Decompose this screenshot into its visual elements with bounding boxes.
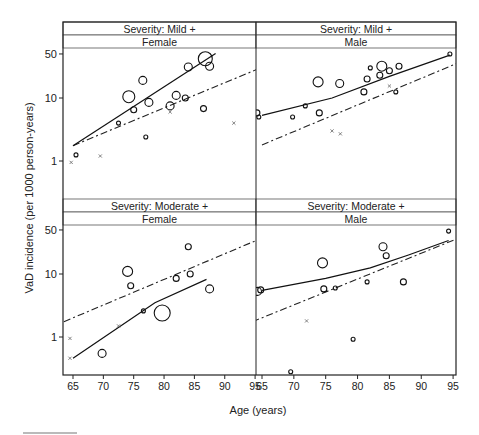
reference-line	[73, 69, 258, 146]
data-point	[289, 370, 293, 374]
cross-marker	[70, 161, 73, 164]
x-tick-label: 75	[320, 380, 332, 392]
data-point	[185, 244, 191, 250]
trellis-chart: Severity: Mild +FemaleSeverity: Mild +Ma…	[0, 0, 479, 435]
data-point	[368, 66, 372, 70]
y-tick-label: 50	[45, 224, 57, 236]
data-point	[128, 283, 134, 289]
data-point	[364, 76, 370, 82]
data-point	[117, 121, 121, 125]
x-tick-label: 90	[219, 380, 231, 392]
panel-mild-female: Severity: Mild +Female	[63, 22, 258, 164]
y-tick-label: 1	[51, 331, 57, 343]
cross-marker	[68, 357, 71, 360]
x-tick-label: 65	[256, 380, 268, 392]
data-point	[400, 279, 406, 285]
data-point	[144, 135, 148, 139]
cross-marker	[68, 337, 71, 340]
y-tick-label: 10	[45, 268, 57, 280]
cross-marker	[99, 154, 102, 157]
plot-frame	[63, 22, 456, 375]
strip-sex-label: Female	[142, 36, 177, 48]
data-point	[351, 337, 355, 341]
strip-sex-label: Male	[345, 213, 368, 225]
cross-marker	[339, 132, 342, 135]
data-point	[139, 76, 147, 84]
data-point	[98, 349, 106, 357]
data-point	[377, 72, 383, 78]
x-axis-label: Age (years)	[230, 404, 287, 416]
strip-severity-label: Severity: Mild +	[123, 23, 195, 35]
data-point	[377, 61, 387, 71]
data-point	[123, 91, 135, 103]
data-point	[201, 106, 207, 112]
panel-moderate-female: Severity: Moderate +Female	[63, 199, 258, 360]
panel-moderate-male: Severity: Moderate +Male	[252, 199, 456, 374]
strip-sex-label: Female	[142, 213, 177, 225]
cross-marker	[169, 110, 172, 113]
strip-severity-label: Severity: Mild +	[320, 23, 392, 35]
x-tick-label: 95	[447, 380, 459, 392]
data-point	[361, 89, 367, 95]
data-point	[206, 285, 214, 293]
x-tick-label: 75	[128, 380, 140, 392]
cross-marker	[305, 319, 308, 322]
data-point	[145, 98, 153, 106]
fitted-line	[73, 53, 216, 145]
data-point	[291, 115, 295, 119]
x-tick-label: 85	[384, 380, 396, 392]
data-point	[313, 77, 323, 87]
data-point	[394, 90, 398, 94]
data-point	[172, 91, 180, 99]
data-point	[383, 253, 389, 259]
data-point	[386, 68, 392, 74]
y-tick-label: 1	[51, 155, 57, 167]
y-axis-label: VaD incidence (per 1000 person-years)	[23, 102, 35, 293]
reference-line	[64, 240, 258, 322]
data-point	[321, 286, 327, 292]
x-tick-label: 80	[158, 380, 170, 392]
y-tick-label: 50	[45, 48, 57, 60]
data-point	[206, 62, 214, 70]
data-point	[318, 258, 328, 268]
data-point	[187, 271, 193, 277]
x-tick-label: 85	[189, 380, 201, 392]
data-point	[379, 243, 387, 251]
cross-marker	[388, 84, 391, 87]
strip-severity-label: Severity: Moderate +	[307, 200, 404, 212]
fitted-line	[262, 55, 450, 115]
strip-sex-label: Male	[345, 36, 368, 48]
data-point	[173, 275, 179, 281]
reference-line	[252, 239, 456, 322]
data-point	[447, 229, 451, 233]
data-point	[74, 153, 78, 157]
cross-marker	[232, 121, 235, 124]
x-tick-label: 70	[98, 380, 110, 392]
x-tick-label: 70	[288, 380, 300, 392]
y-tick-label: 10	[45, 92, 57, 104]
data-point	[365, 280, 369, 284]
data-point	[184, 63, 192, 71]
data-point	[131, 107, 137, 113]
data-point	[198, 52, 212, 66]
panel-mild-male: Severity: Mild +Male	[254, 22, 456, 145]
cross-marker	[330, 129, 333, 132]
fitted-line	[262, 241, 449, 291]
data-point	[166, 102, 174, 110]
x-tick-label: 90	[415, 380, 427, 392]
data-point	[396, 63, 402, 69]
reference-line	[262, 64, 456, 145]
data-point	[336, 80, 344, 88]
strip-severity-label: Severity: Moderate +	[111, 200, 208, 212]
data-point	[123, 266, 133, 276]
data-point	[316, 110, 322, 116]
data-point	[154, 305, 170, 321]
x-tick-label: 65	[67, 380, 79, 392]
fitted-line	[73, 279, 207, 358]
x-tick-label: 80	[352, 380, 364, 392]
